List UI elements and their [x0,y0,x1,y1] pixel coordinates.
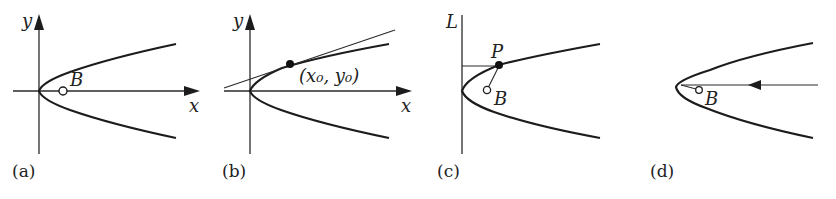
focus-label: B [493,88,507,109]
panel-caption: (b) [222,161,246,181]
x-axis-label: x [401,95,411,116]
focus-label: B [704,88,718,109]
parabola-curve [462,44,600,138]
panel-d: B (d) [650,43,818,181]
ray-arrow-left-icon [748,80,761,90]
x-axis-label: x [189,95,199,116]
panel-caption: (d) [650,161,674,181]
panel-a: y B x (a) [12,10,200,181]
reflected-ray [681,85,696,89]
panel-c: L P B (c) [437,11,600,181]
point-p-label: P [490,41,504,62]
focus-point-b [483,86,490,93]
y-axis-label: y [21,10,33,31]
focus-point-b [59,87,67,95]
point-p [495,61,503,69]
y-axis-label: y [232,10,244,31]
panel-caption: (c) [437,161,460,181]
y-axis-arrow-icon [245,14,255,30]
y-axis-arrow-icon [34,14,44,30]
focus-label: B [69,69,83,90]
directrix-label: L [445,11,458,32]
parabola-figure: y B x (a) y (x₀, y₀) x (b) L P B (c) [0,0,836,199]
tangent-point-label: (x₀, y₀) [299,65,359,86]
focus-point-b [696,87,703,94]
panel-caption: (a) [12,161,35,181]
tangent-point [286,60,294,68]
panel-b: y (x₀, y₀) x (b) [222,10,412,181]
